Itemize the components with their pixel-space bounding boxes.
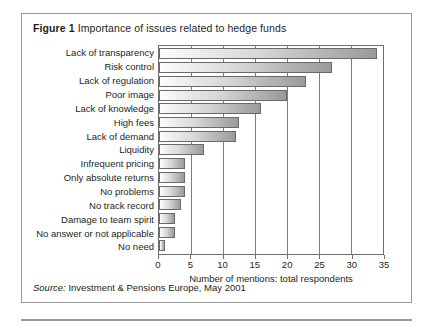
category-label: High fees bbox=[22, 117, 154, 128]
bar-row bbox=[159, 240, 383, 251]
category-label: Lack of transparency bbox=[22, 47, 154, 58]
bar-row bbox=[159, 186, 383, 197]
x-axis-ticks: 05101520253035 bbox=[158, 255, 384, 261]
bar bbox=[159, 90, 287, 101]
bar bbox=[159, 186, 185, 197]
bar-series bbox=[159, 46, 383, 254]
x-tick-label: 30 bbox=[346, 259, 357, 270]
figure-page: Figure 1 Importance of issues related to… bbox=[0, 0, 434, 330]
bar-row bbox=[159, 76, 383, 87]
category-label: Lack of knowledge bbox=[22, 103, 154, 114]
x-tick-label: 25 bbox=[314, 259, 325, 270]
category-label: No problems bbox=[22, 186, 154, 197]
bar bbox=[159, 199, 181, 210]
x-tick-label: 35 bbox=[379, 259, 390, 270]
category-label: Lack of demand bbox=[22, 131, 154, 142]
bar-row bbox=[159, 62, 383, 73]
source-note: Source: Investment & Pensions Europe, Ma… bbox=[33, 282, 246, 293]
bar-row bbox=[159, 172, 383, 183]
bar bbox=[159, 76, 306, 87]
category-label: Poor image bbox=[22, 89, 154, 100]
x-tick-label: 20 bbox=[282, 259, 293, 270]
figure-title-text: Importance of issues related to hedge fu… bbox=[78, 22, 287, 34]
bar bbox=[159, 117, 239, 128]
bar bbox=[159, 131, 236, 142]
category-label: No need bbox=[22, 241, 154, 252]
category-label: Liquidity bbox=[22, 144, 154, 155]
bar-row bbox=[159, 103, 383, 114]
plot-area bbox=[158, 45, 384, 255]
bar bbox=[159, 158, 185, 169]
category-label: Lack of regulation bbox=[22, 75, 154, 86]
x-tick-label: 0 bbox=[155, 259, 160, 270]
bar bbox=[159, 240, 165, 251]
category-label: No track record bbox=[22, 200, 154, 211]
bar-row bbox=[159, 144, 383, 155]
x-tick-label: 10 bbox=[217, 259, 228, 270]
bar-row bbox=[159, 213, 383, 224]
bar bbox=[159, 48, 377, 59]
bar bbox=[159, 172, 185, 183]
bar-row bbox=[159, 227, 383, 238]
bar bbox=[159, 227, 175, 238]
bar-row bbox=[159, 131, 383, 142]
bar bbox=[159, 213, 175, 224]
x-tick-label: 15 bbox=[250, 259, 261, 270]
bar-chart: Lack of transparencyRisk controlLack of … bbox=[22, 41, 411, 263]
bar-row bbox=[159, 48, 383, 59]
category-label: No answer or not applicable bbox=[22, 228, 154, 239]
x-tick-label: 5 bbox=[188, 259, 193, 270]
figure-caption: Figure 1 Importance of issues related to… bbox=[33, 22, 286, 34]
bottom-divider bbox=[21, 319, 412, 321]
source-label: Source: bbox=[33, 282, 66, 293]
bar bbox=[159, 144, 204, 155]
bar bbox=[159, 103, 261, 114]
bar-row bbox=[159, 117, 383, 128]
figure-number: Figure 1 bbox=[33, 22, 75, 34]
bar bbox=[159, 62, 332, 73]
bar-row bbox=[159, 90, 383, 101]
bar-row bbox=[159, 158, 383, 169]
bar-row bbox=[159, 199, 383, 210]
category-axis-labels: Lack of transparencyRisk controlLack of … bbox=[22, 45, 154, 255]
category-label: Risk control bbox=[22, 61, 154, 72]
category-label: Infrequent pricing bbox=[22, 158, 154, 169]
category-label: Only absolute returns bbox=[22, 172, 154, 183]
source-value: Investment & Pensions Europe, May 2001 bbox=[68, 282, 245, 293]
figure-frame: Figure 1 Importance of issues related to… bbox=[21, 13, 412, 303]
category-label: Damage to team spirit bbox=[22, 214, 154, 225]
